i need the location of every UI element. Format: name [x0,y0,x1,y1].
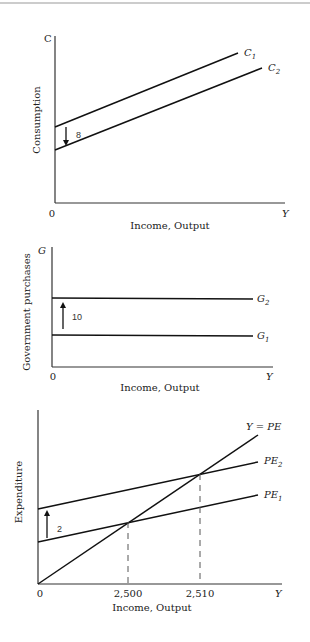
g2-line [52,298,253,299]
c2-label: C2 [268,62,281,76]
origin-label: 0 [49,208,55,219]
y-axis-label: Expenditure [13,461,24,524]
tick-2510: 2,510 [186,588,215,599]
shift-amount: 8 [76,130,81,140]
tick-2500: 2,500 [114,588,143,599]
origin-label: 0 [37,588,43,599]
x-axis-symbol: Y [266,371,274,382]
origin-label: 0 [50,371,56,382]
c1-label: C1 [244,47,256,61]
x-axis-label: Income, Output [112,602,191,613]
y-axis-label: Consumption [31,86,42,154]
x-axis-label: Income, Output [130,220,209,231]
pe1-label: PE1 [263,489,283,503]
government-chart: G Government purchases G2 G1 10 0 Y Inco… [21,245,274,393]
g1-line [52,335,253,336]
pe2-label: PE2 [263,455,283,469]
y-equals-pe-label: Y = PE [246,421,282,432]
x-axis-symbol: Y [275,588,283,599]
shift-amount: 2 [57,524,62,534]
y-axis-symbol: C [44,33,52,44]
x-axis-label: Income, Output [120,382,199,393]
y-axis-label: Government purchases [21,253,32,371]
c2-line [55,68,262,150]
expenditure-chart: Expenditure Y = PE PE2 PE1 2 0 2,500 2,5… [13,410,283,613]
x-axis-symbol: Y [282,208,290,219]
figure: C Consumption C1 C2 8 0 Y Income, Output… [0,0,310,642]
y-axis-symbol: G [38,245,46,256]
y-equals-pe-line [38,435,258,584]
g2-label: G2 [257,293,270,307]
g1-label: G1 [257,330,269,344]
consumption-chart: C Consumption C1 C2 8 0 Y Income, Output [31,33,290,231]
shift-amount: 10 [72,312,82,322]
c1-line [55,53,238,127]
